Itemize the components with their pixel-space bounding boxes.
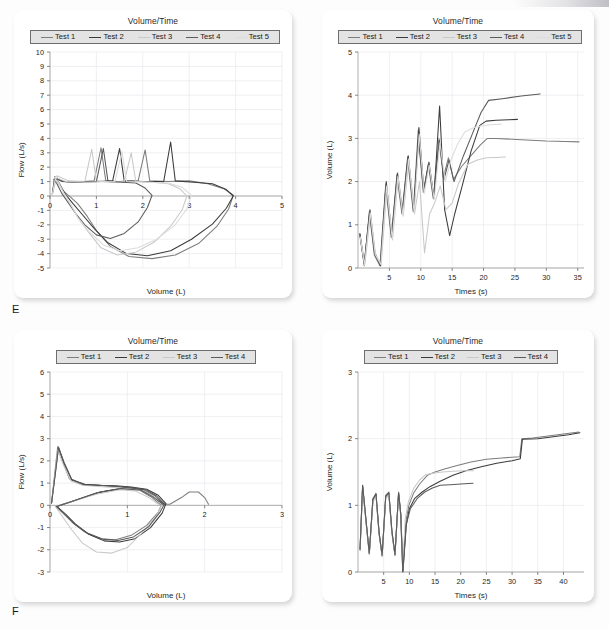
panel-label-f: F [12, 605, 19, 617]
legend-swatch-test1 [67, 357, 79, 358]
legend-swatch-test2 [89, 37, 101, 38]
legend-label-test1: Test 1 [388, 353, 408, 361]
legend-label-test3: Test 3 [481, 353, 501, 361]
svg-text:2: 2 [348, 177, 352, 186]
legend-item-test4[interactable]: Test 4 [514, 353, 548, 361]
legend-item-test4[interactable]: Test 4 [211, 353, 245, 361]
legend-label-test4: Test 4 [200, 33, 220, 41]
legend-label-test1: Test 1 [81, 353, 101, 361]
svg-text:10: 10 [417, 273, 425, 282]
svg-text:25: 25 [511, 273, 519, 282]
panel-f-volume-time-card: Volume/Time Test 1 Test 2 Test 3 Test 4 [322, 330, 594, 602]
svg-text:0: 0 [40, 501, 44, 510]
legend-item-test3[interactable]: Test 3 [467, 353, 501, 361]
legend-swatch-test3 [163, 357, 175, 358]
svg-text:5: 5 [382, 577, 386, 586]
svg-text:-5: -5 [37, 264, 44, 273]
plot-svg: -5-4-3-2-1012345678910012345Volume (L)Fl… [14, 44, 292, 298]
svg-text:Volume (L): Volume (L) [325, 140, 334, 179]
svg-text:1: 1 [94, 201, 98, 210]
legend-label-test1: Test 1 [55, 33, 75, 41]
svg-text:Volume (L): Volume (L) [147, 287, 186, 296]
chart-legend: Test 1 Test 2 Test 3 Test 4 [364, 350, 558, 364]
legend-item-test1[interactable]: Test 1 [374, 353, 408, 361]
chart-title: Volume/Time [322, 16, 594, 26]
svg-text:1: 1 [40, 177, 44, 186]
legend-item-test5[interactable]: Test 5 [235, 33, 269, 41]
legend-label-test2: Test 2 [129, 353, 149, 361]
plot-svg: 0123455101520253035Times (s)Volume (L) [322, 44, 594, 298]
svg-text:Flow (L/s): Flow (L/s) [17, 142, 26, 177]
svg-text:Flow (L/s): Flow (L/s) [17, 454, 26, 489]
svg-text:4: 4 [40, 412, 44, 421]
svg-text:-4: -4 [37, 249, 44, 258]
chart-f-flow-volume: Volume/Time Test 1 Test 2 Test 3 Test 4 [14, 330, 292, 602]
legend-item-test2[interactable]: Test 2 [89, 33, 123, 41]
legend-swatch-test2 [115, 357, 127, 358]
legend-swatch-test4 [514, 357, 526, 358]
legend-item-test1[interactable]: Test 1 [348, 33, 382, 41]
chart-f-volume-time: Volume/Time Test 1 Test 2 Test 3 Test 4 [322, 330, 594, 602]
legend-label-test3: Test 3 [177, 353, 197, 361]
legend-swatch-test4 [186, 37, 198, 38]
svg-text:3: 3 [40, 148, 44, 157]
legend-swatch-test2 [396, 37, 408, 38]
svg-text:5: 5 [40, 120, 44, 129]
legend-item-test2[interactable]: Test 2 [115, 353, 149, 361]
svg-text:Volume (L): Volume (L) [147, 591, 186, 600]
svg-text:Times (s): Times (s) [454, 287, 487, 296]
svg-text:2: 2 [141, 201, 145, 210]
svg-text:0: 0 [40, 192, 44, 201]
svg-text:10: 10 [36, 48, 44, 57]
legend-item-test4[interactable]: Test 4 [186, 33, 220, 41]
chart-title: Volume/Time [14, 336, 292, 346]
svg-text:20: 20 [457, 577, 465, 586]
legend-swatch-test4 [211, 357, 223, 358]
legend-item-test1[interactable]: Test 1 [41, 33, 75, 41]
plot-area: -3-2-101234560123Volume (L)Flow (L/s) [14, 364, 292, 602]
svg-text:4: 4 [234, 201, 238, 210]
svg-text:3: 3 [280, 510, 284, 519]
legend-item-test1[interactable]: Test 1 [67, 353, 101, 361]
legend-item-test2[interactable]: Test 2 [421, 353, 455, 361]
panel-f-flow-volume-card: Volume/Time Test 1 Test 2 Test 3 Test 4 [14, 330, 292, 602]
plot-area: -5-4-3-2-1012345678910012345Volume (L)Fl… [14, 44, 292, 298]
panel-label-e: E [12, 303, 20, 315]
chart-e-flow-volume: Volume/Time Test 1 Test 2 Test 3 Test 4 [14, 10, 292, 298]
svg-text:30: 30 [508, 577, 516, 586]
legend-item-test4[interactable]: Test 4 [490, 33, 524, 41]
svg-text:2: 2 [40, 456, 44, 465]
legend-label-test2: Test 2 [410, 33, 430, 41]
legend-swatch-test5 [537, 37, 549, 38]
legend-item-test3[interactable]: Test 3 [163, 353, 197, 361]
legend-label-test3: Test 3 [152, 33, 172, 41]
legend-label-test2: Test 2 [103, 33, 123, 41]
svg-text:Times (s): Times (s) [454, 591, 487, 600]
svg-text:4: 4 [40, 134, 44, 143]
svg-text:1: 1 [348, 220, 352, 229]
legend-swatch-test1 [41, 37, 53, 38]
legend-item-test2[interactable]: Test 2 [396, 33, 430, 41]
legend-swatch-test1 [374, 357, 386, 358]
legend-item-test5[interactable]: Test 5 [537, 33, 571, 41]
figure-root: Volume/Time Test 1 Test 2 Test 3 Test 4 [0, 0, 609, 629]
legend-swatch-test2 [421, 357, 433, 358]
svg-text:0: 0 [348, 568, 352, 577]
legend-label-test5: Test 5 [249, 33, 269, 41]
svg-text:20: 20 [479, 273, 487, 282]
svg-text:9: 9 [40, 62, 44, 71]
svg-text:5: 5 [348, 48, 352, 57]
svg-text:7: 7 [40, 91, 44, 100]
svg-text:15: 15 [431, 577, 439, 586]
svg-text:-2: -2 [37, 220, 44, 229]
svg-text:3: 3 [40, 434, 44, 443]
svg-text:3: 3 [348, 368, 352, 377]
svg-text:-3: -3 [37, 235, 44, 244]
svg-text:3: 3 [348, 134, 352, 143]
svg-text:5: 5 [40, 390, 44, 399]
legend-item-test3[interactable]: Test 3 [138, 33, 172, 41]
legend-label-test1: Test 1 [362, 33, 382, 41]
legend-item-test3[interactable]: Test 3 [443, 33, 477, 41]
legend-label-test4: Test 4 [528, 353, 548, 361]
legend-swatch-test3 [443, 37, 455, 38]
